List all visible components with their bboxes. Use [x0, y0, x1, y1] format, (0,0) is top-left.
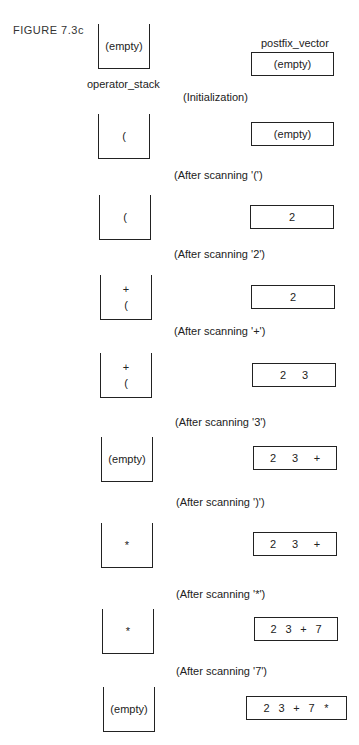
postfix-token: 7: [304, 702, 319, 714]
postfix-token: 3: [284, 538, 306, 550]
postfix-vector: (empty): [251, 122, 334, 146]
operator-stack: *: [101, 523, 153, 568]
step-caption: (After scanning '('): [174, 169, 263, 181]
operator-stack: *: [102, 609, 154, 654]
step-caption: (After scanning '*'): [176, 588, 265, 600]
step-caption: (Initialization): [183, 91, 248, 103]
step-caption: (After scanning ')'): [176, 496, 265, 508]
postfix-token: +: [306, 538, 328, 550]
operator-stack-title: operator_stack: [87, 78, 160, 90]
operator-stack: (empty): [98, 24, 150, 69]
stack-item: +: [123, 281, 129, 297]
step-caption: (After scanning '2'): [174, 248, 265, 260]
postfix-vector: (empty): [251, 52, 334, 76]
stack-item: *: [125, 537, 129, 553]
postfix-token: 2: [262, 452, 284, 464]
step-caption: (After scanning '7'): [176, 665, 267, 677]
stack-item: (: [123, 209, 127, 225]
postfix-token: 2: [290, 291, 296, 303]
postfix-token: +: [289, 702, 304, 714]
postfix-token: 2: [289, 211, 295, 223]
postfix-vector: 23+: [253, 532, 337, 556]
operator-stack: +(: [100, 353, 152, 398]
postfix-vector: 2: [251, 285, 335, 309]
figure-label: FIGURE 7.3c: [13, 24, 84, 36]
postfix-token: 2: [266, 623, 281, 635]
postfix-vector: 23: [252, 363, 336, 387]
stack-item: (: [124, 297, 128, 313]
postfix-token: 2: [262, 538, 284, 550]
stack-item: (empty): [110, 701, 147, 717]
operator-stack: (empty): [103, 687, 155, 732]
postfix-token: 3: [284, 452, 306, 464]
postfix-token: +: [296, 623, 311, 635]
postfix-token: (empty): [274, 128, 311, 140]
step-caption: (After scanning '3'): [175, 416, 266, 428]
postfix-token: (empty): [274, 58, 311, 70]
stack-item: (: [124, 375, 128, 391]
operator-stack: (: [99, 195, 151, 240]
postfix-vector-title: postfix_vector: [261, 37, 329, 49]
stack-item: *: [126, 623, 130, 639]
postfix-token: 7: [311, 623, 326, 635]
operator-stack: +(: [100, 275, 152, 320]
postfix-token: +: [306, 452, 328, 464]
stack-item: +: [123, 359, 129, 375]
operator-stack: (: [98, 114, 150, 159]
step-caption: (After scanning '+'): [174, 325, 265, 337]
stack-item: (empty): [105, 38, 142, 54]
postfix-vector: 23+7*: [246, 696, 347, 720]
postfix-vector: 2: [250, 205, 334, 229]
postfix-token: *: [319, 702, 334, 714]
postfix-token: 3: [274, 702, 289, 714]
postfix-vector: 23+: [253, 446, 337, 470]
postfix-token: 2: [272, 369, 294, 381]
postfix-token: 3: [281, 623, 296, 635]
postfix-token: 2: [259, 702, 274, 714]
operator-stack: (empty): [101, 437, 153, 482]
postfix-vector: 23+7: [254, 617, 338, 641]
stack-item: (empty): [108, 451, 145, 467]
postfix-token: 3: [294, 369, 316, 381]
stack-item: (: [122, 128, 126, 144]
